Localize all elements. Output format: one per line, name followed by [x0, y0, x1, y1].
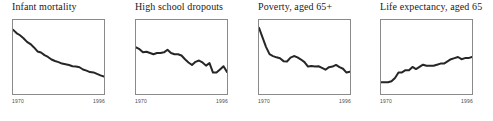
- x-axis-tick-end: 1996: [93, 98, 105, 104]
- series-line-svg: [136, 20, 227, 94]
- small-multiples-chart-grid: Infant mortality19701996High school drop…: [0, 0, 493, 121]
- series-line-svg: [381, 20, 472, 94]
- x-axis-tick-end: 1996: [339, 98, 351, 104]
- x-axis-tick-start: 1970: [258, 98, 270, 104]
- chart-panel-1: Infant mortality19701996: [12, 0, 128, 121]
- plot-area: [380, 19, 473, 95]
- chart-panel-2: High school dropouts19701996: [135, 0, 251, 121]
- chart-panel-4: Life expectancy, aged 6519701996: [380, 0, 493, 121]
- panel-title: Infant mortality: [12, 1, 77, 13]
- data-series-line: [13, 30, 104, 77]
- data-series-line: [381, 57, 472, 82]
- series-line-svg: [13, 20, 104, 94]
- plot-area: [12, 19, 105, 95]
- plot-area: [135, 19, 228, 95]
- chart-panel-3: Poverty, aged 65+19701996: [258, 0, 374, 121]
- panel-title: Poverty, aged 65+: [258, 1, 332, 13]
- x-axis-tick-start: 1970: [12, 98, 24, 104]
- panel-title: Life expectancy, aged 65: [380, 1, 482, 13]
- x-axis-tick-end: 1996: [461, 98, 473, 104]
- x-axis-tick-end: 1996: [216, 98, 228, 104]
- data-series-line: [259, 28, 350, 73]
- panel-title: High school dropouts: [135, 1, 223, 13]
- plot-area: [258, 19, 351, 95]
- series-line-svg: [259, 20, 350, 94]
- x-axis-tick-start: 1970: [135, 98, 147, 104]
- data-series-line: [136, 47, 227, 72]
- x-axis-tick-start: 1970: [380, 98, 392, 104]
